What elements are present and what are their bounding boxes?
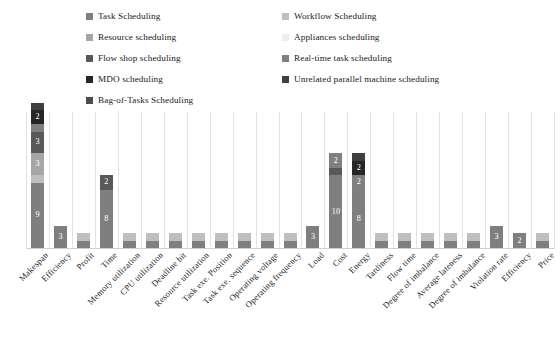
bar-segment (238, 241, 251, 248)
bar-segment (536, 233, 549, 240)
bar-segment (261, 233, 274, 240)
stacked-bar[interactable] (398, 233, 411, 248)
gridline (49, 112, 50, 249)
stacked-bar[interactable] (77, 233, 90, 248)
plot-area: 9332382310282232 (26, 112, 554, 249)
bar-segment (444, 233, 457, 240)
bar-segment: 3 (31, 132, 44, 154)
legend-item[interactable]: Task Scheduling (86, 12, 160, 21)
bar-segment (169, 233, 182, 240)
bar-value-label: 9 (35, 211, 39, 219)
bar-segment: 8 (352, 190, 365, 248)
bar-segment: 2 (31, 110, 44, 125)
stacked-bar[interactable]: 3 (54, 226, 67, 248)
legend-swatch-icon (86, 34, 93, 41)
gridline (95, 112, 96, 249)
legend-item-label: Flow shop scheduling (98, 54, 181, 63)
stacked-bar[interactable] (467, 233, 480, 248)
legend-item[interactable]: MDO scheduling (86, 75, 163, 84)
bar-segment: 2 (100, 175, 113, 190)
gridline (256, 112, 257, 249)
stacked-bar[interactable] (261, 233, 274, 248)
stacked-bar[interactable] (169, 233, 182, 248)
legend-item[interactable]: Flow shop scheduling (86, 54, 181, 63)
gridline (187, 112, 188, 249)
bar-segment (375, 241, 388, 248)
stacked-bar[interactable]: 3 (490, 226, 503, 248)
stacked-bar[interactable] (215, 233, 228, 248)
legend-item[interactable]: Real-time task scheduling (282, 54, 392, 63)
gridline (370, 112, 371, 249)
gridline (347, 112, 348, 249)
bar-value-label: 3 (58, 233, 62, 241)
bar-value-label: 8 (104, 215, 108, 223)
bar-segment: 3 (306, 226, 319, 248)
bar-value-label: 2 (357, 178, 361, 186)
bar-segment: 8 (100, 190, 113, 248)
legend-swatch-icon (282, 13, 289, 20)
bar-value-label: 8 (357, 215, 361, 223)
x-axis-line (26, 248, 554, 249)
stacked-bar[interactable] (238, 233, 251, 248)
stacked-bar[interactable] (421, 233, 434, 248)
legend-item[interactable]: Workflow Scheduling (282, 12, 377, 21)
stacked-bar[interactable] (444, 233, 457, 248)
stacked-bar[interactable] (146, 233, 159, 248)
gridline (26, 112, 27, 249)
bar-value-label: 3 (35, 160, 39, 168)
gridline (508, 112, 509, 249)
stacked-bar[interactable]: 9332 (31, 103, 44, 249)
bar-segment: 9 (31, 183, 44, 249)
gridline (554, 112, 555, 249)
bar-segment (146, 233, 159, 240)
bar-segment: 10 (329, 175, 342, 248)
bar-segment (192, 233, 205, 240)
stacked-bar[interactable]: 82 (100, 175, 113, 248)
gridline (279, 112, 280, 249)
legend-item[interactable]: Resource scheduling (86, 33, 176, 42)
bar-segment (77, 233, 90, 240)
legend-item-label: Real-time task scheduling (294, 54, 392, 63)
stacked-bar-chart: Task SchedulingWorkflow SchedulingResour… (0, 0, 560, 357)
bar-segment: 3 (490, 226, 503, 248)
stacked-bar[interactable] (192, 233, 205, 248)
bar-segment: 3 (54, 226, 67, 248)
bar-segment: 2 (513, 233, 526, 248)
bar-segment (215, 233, 228, 240)
stacked-bar[interactable]: 2 (513, 233, 526, 248)
stacked-bar[interactable] (284, 233, 297, 248)
stacked-bar[interactable] (123, 233, 136, 248)
bar-segment (146, 241, 159, 248)
bar-segment (467, 233, 480, 240)
bar-segment (31, 103, 44, 110)
legend-item-label: Task Scheduling (98, 12, 160, 21)
bar-value-label: 2 (518, 237, 522, 245)
legend-swatch-icon (282, 55, 289, 62)
stacked-bar[interactable]: 3 (306, 226, 319, 248)
legend-item[interactable]: Appliances scheduling (282, 33, 380, 42)
bar-value-label: 3 (311, 233, 315, 241)
bar-segment (421, 233, 434, 240)
bar-value-label: 2 (357, 164, 361, 172)
stacked-bar[interactable] (375, 233, 388, 248)
bar-value-label: 10 (332, 208, 340, 216)
bar-segment (123, 241, 136, 248)
legend-item[interactable]: Bag-of-Tasks Scheduling (86, 96, 193, 105)
bar-segment (467, 241, 480, 248)
x-tick-label: Profit (75, 250, 97, 272)
legend-swatch-icon (282, 76, 289, 83)
legend-item[interactable]: Unrelated parallel machine scheduling (282, 75, 439, 84)
x-tick-label: Load (306, 250, 326, 270)
bar-segment (215, 241, 228, 248)
legend-swatch-icon (86, 55, 93, 62)
bar-segment (192, 241, 205, 248)
legend-item-label: Workflow Scheduling (294, 12, 377, 21)
gridline (393, 112, 394, 249)
bar-segment (421, 241, 434, 248)
stacked-bar[interactable] (536, 233, 549, 248)
stacked-bar[interactable]: 102 (329, 153, 342, 248)
legend-item-label: Appliances scheduling (294, 33, 380, 42)
bar-segment: 3 (31, 153, 44, 175)
bar-segment (536, 241, 549, 248)
stacked-bar[interactable]: 822 (352, 153, 365, 248)
